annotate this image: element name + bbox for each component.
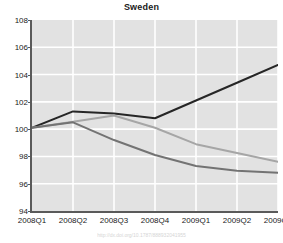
chart-figure: Sweden 949698100102104106108 2008Q12008Q… (0, 0, 283, 243)
y-tick-mark (28, 20, 32, 21)
x-tick-label: 2008Q2 (59, 216, 87, 225)
x-tick-label: 2009Q2 (223, 216, 251, 225)
series-line (32, 122, 278, 172)
plot-area (32, 20, 278, 211)
x-tick-label: 2008Q1 (18, 216, 46, 225)
footer-caption: http://dx.doi.org/10.1787/888932041955 (0, 232, 283, 238)
y-tick-label: 94 (2, 207, 28, 216)
y-tick-label: 98 (2, 152, 28, 161)
y-tick-mark (28, 75, 32, 76)
y-tick-label: 108 (2, 16, 28, 25)
y-tick-label: 102 (2, 97, 28, 106)
x-tick-label: 2008Q4 (141, 216, 169, 225)
y-tick-mark (28, 102, 32, 103)
y-tick-label: 96 (2, 179, 28, 188)
y-tick-label: 104 (2, 70, 28, 79)
x-tick-label: 2009Q3 (264, 216, 283, 225)
y-tick-mark (28, 129, 32, 130)
series-lines (32, 20, 278, 211)
chart-title: Sweden (0, 2, 283, 12)
y-tick-label: 100 (2, 125, 28, 134)
y-tick-label: 106 (2, 43, 28, 52)
x-axis-tick-labels: 2008Q12008Q22008Q32008Q42009Q12009Q22009… (32, 216, 278, 228)
y-axis-tick-labels: 949698100102104106108 (0, 0, 28, 243)
series-line (32, 65, 278, 128)
x-axis (30, 211, 278, 213)
x-tick-label: 2008Q3 (100, 216, 128, 225)
x-tick-label: 2009Q1 (182, 216, 210, 225)
y-tick-mark (28, 184, 32, 185)
y-tick-mark (28, 47, 32, 48)
y-tick-mark (28, 211, 32, 212)
y-tick-mark (28, 156, 32, 157)
